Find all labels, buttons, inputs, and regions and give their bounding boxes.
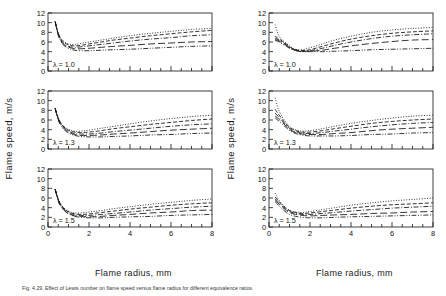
x-tick-label: 2 (87, 229, 91, 238)
x-tick-label: 6 (169, 229, 173, 238)
x-tick-label: 2 (308, 229, 312, 238)
y-tick-label: 10 (258, 19, 266, 28)
x-tick-label: 6 (390, 229, 394, 238)
chart-panel-right-bottom: 02468101202468λ = 1.5 (243, 164, 439, 240)
y-tick-label: 4 (41, 48, 45, 57)
y-tick-label: 12 (258, 87, 266, 96)
y-tick-label: 10 (37, 97, 45, 106)
y-tick-label: 4 (41, 204, 45, 213)
y-tick-label: 10 (258, 175, 266, 184)
y-tick-label: 12 (37, 87, 45, 96)
y-tick-label: 0 (262, 223, 266, 232)
y-tick-label: 2 (262, 57, 266, 66)
chart-panel-left-middle: 024681012λ = 1.3 (22, 86, 218, 162)
y-tick-label: 10 (37, 175, 45, 184)
y-tick-label: 8 (41, 28, 45, 37)
y-tick-label: 4 (41, 126, 45, 135)
panel-annotation: λ = 1.0 (53, 60, 75, 69)
chart-panel-right-top: 024681012λ = 1.0 (243, 8, 439, 84)
y-tick-label: 0 (41, 145, 45, 154)
x-tick-label: 4 (128, 229, 132, 238)
y-tick-label: 10 (37, 19, 45, 28)
y-tick-label: 2 (262, 213, 266, 222)
y-axis-label-right-text: Flame speed, m/s (226, 97, 237, 179)
y-tick-label: 2 (41, 135, 45, 144)
panel-annotation: λ = 1.5 (274, 216, 296, 225)
y-tick-label: 12 (37, 9, 45, 18)
y-tick-label: 6 (262, 116, 266, 125)
x-axis-label-right: Flame radius, mm (316, 268, 393, 278)
x-tick-label: 4 (349, 229, 353, 238)
y-tick-label: 0 (41, 223, 45, 232)
y-axis-label-left-text: Flame speed, m/s (4, 97, 15, 179)
x-tick-label: 8 (210, 229, 214, 238)
y-tick-label: 8 (41, 106, 45, 115)
y-axis-label-left: Flame speed, m/s (0, 18, 18, 258)
x-axis-label-left: Flame radius, mm (95, 268, 172, 278)
y-tick-label: 2 (41, 213, 45, 222)
figure-container: Flame speed, m/s Flame speed, m/s Flame … (0, 0, 446, 296)
y-tick-label: 12 (37, 165, 45, 174)
y-tick-label: 6 (262, 194, 266, 203)
y-tick-label: 12 (258, 9, 266, 18)
y-tick-label: 4 (262, 126, 266, 135)
y-tick-label: 8 (262, 184, 266, 193)
y-axis-label-right: Flame speed, m/s (222, 18, 240, 258)
panel-annotation: λ = 1.5 (53, 216, 75, 225)
y-tick-label: 8 (262, 28, 266, 37)
panel-annotation: λ = 1.3 (53, 138, 75, 147)
y-tick-label: 10 (258, 97, 266, 106)
y-tick-label: 6 (41, 194, 45, 203)
y-tick-label: 0 (262, 145, 266, 154)
y-tick-label: 6 (41, 38, 45, 47)
y-tick-label: 4 (262, 48, 266, 57)
panel-annotation: λ = 1.0 (274, 60, 296, 69)
y-tick-label: 0 (41, 67, 45, 76)
x-tick-label: 0 (46, 229, 50, 238)
y-tick-label: 2 (262, 135, 266, 144)
y-tick-label: 6 (262, 38, 266, 47)
x-tick-label: 8 (431, 229, 435, 238)
y-tick-label: 0 (262, 67, 266, 76)
chart-panel-left-top: 024681012λ = 1.0 (22, 8, 218, 84)
y-tick-label: 12 (258, 165, 266, 174)
y-tick-label: 8 (262, 106, 266, 115)
y-tick-label: 2 (41, 57, 45, 66)
y-tick-label: 4 (262, 204, 266, 213)
panel-annotation: λ = 1.3 (274, 138, 296, 147)
chart-panel-left-bottom: 02468101202468λ = 1.5 (22, 164, 218, 240)
x-tick-label: 0 (267, 229, 271, 238)
chart-panel-right-middle: 024681012λ = 1.3 (243, 86, 439, 162)
y-tick-label: 8 (41, 184, 45, 193)
y-tick-label: 6 (41, 116, 45, 125)
figure-caption: Fig. 4.29. Effect of Lewis number on fla… (22, 285, 426, 292)
